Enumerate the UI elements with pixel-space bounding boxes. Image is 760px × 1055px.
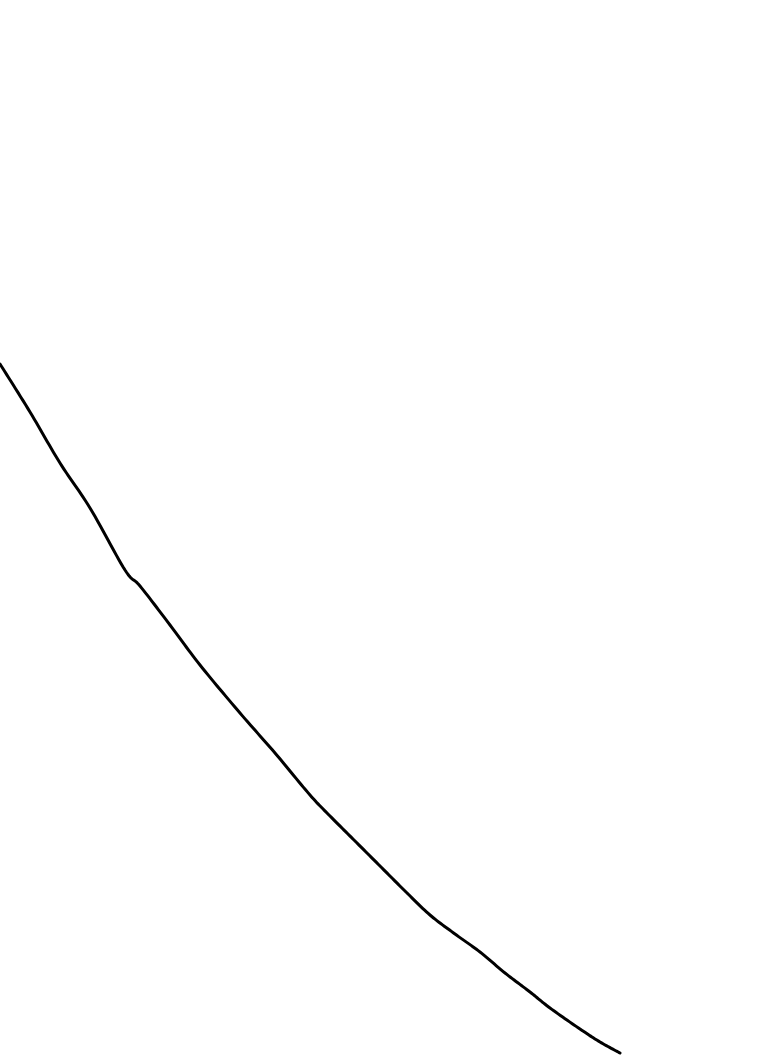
curve-figure: [0, 0, 760, 1055]
figure-background: [0, 0, 760, 1055]
scanned-page: [0, 0, 760, 1055]
